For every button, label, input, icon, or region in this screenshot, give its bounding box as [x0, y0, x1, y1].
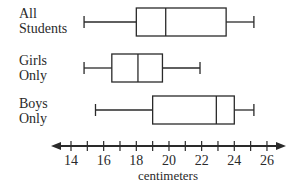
- iqr-box: [136, 8, 226, 36]
- category-label-all-students: All: [19, 6, 37, 21]
- box-girls-only: [84, 54, 200, 82]
- box-all-students: [84, 8, 254, 36]
- box-plots: [84, 8, 254, 124]
- iqr-box: [153, 96, 235, 124]
- tick-label: 18: [129, 153, 143, 168]
- tick-label: 24: [227, 153, 241, 168]
- tick-label: 22: [195, 153, 209, 168]
- category-labels: AllStudentsGirlsOnlyBoysOnly: [19, 6, 67, 126]
- tick-label: 16: [97, 153, 111, 168]
- category-label-girls-only: Only: [19, 68, 47, 83]
- x-axis: 14161820222426: [51, 141, 286, 168]
- box-plot-chart: AllStudentsGirlsOnlyBoysOnly 14161820222…: [0, 0, 307, 195]
- tick-label: 26: [260, 153, 274, 168]
- category-label-all-students: Students: [19, 21, 67, 36]
- tick-label: 20: [162, 153, 176, 168]
- category-label-boys-only: Only: [19, 111, 47, 126]
- iqr-box: [112, 54, 163, 82]
- box-boys-only: [95, 96, 253, 124]
- arrow-left-icon: [51, 142, 61, 150]
- tick-label: 14: [64, 153, 78, 168]
- x-axis-title: centimeters: [138, 168, 198, 183]
- arrow-right-icon: [276, 142, 286, 150]
- category-label-boys-only: Boys: [19, 96, 48, 111]
- category-label-girls-only: Girls: [19, 53, 47, 68]
